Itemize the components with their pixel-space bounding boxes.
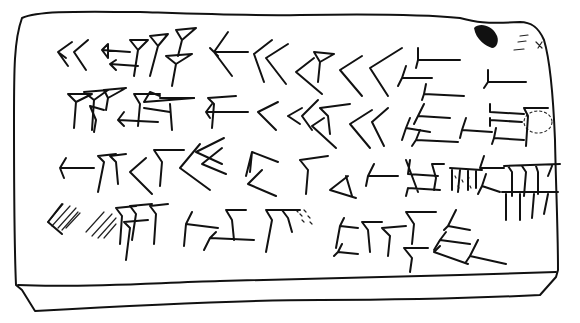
text-line-3	[60, 138, 560, 220]
tablet-outline	[14, 12, 558, 311]
tablet-svg	[0, 0, 580, 323]
text-line-1	[58, 28, 526, 100]
text-line-2	[68, 88, 548, 148]
tablet-drawing: Hand-drawn line copy of a cuneiform clay…	[0, 0, 580, 323]
stippled-traces	[296, 176, 471, 224]
hatched-damage	[48, 204, 116, 238]
text-line-4	[116, 204, 506, 272]
ink-blot	[474, 25, 498, 48]
